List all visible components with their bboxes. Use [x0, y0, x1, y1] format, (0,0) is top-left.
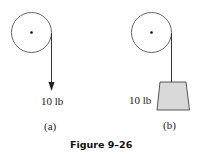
pulley-b-axle [150, 31, 153, 34]
hanging-block [157, 82, 190, 110]
force-label-b: 10 lb [129, 95, 151, 106]
force-arrow-head-icon [49, 82, 55, 91]
force-label-a: 10 lb [41, 96, 63, 107]
panel-label-a: (a) [44, 121, 56, 132]
figure-caption: Figure 9–26 [70, 140, 132, 150]
pulley-a-axle [30, 31, 33, 34]
panel-label-b: (b) [163, 120, 176, 131]
panel-a-diagram [12, 13, 55, 92]
